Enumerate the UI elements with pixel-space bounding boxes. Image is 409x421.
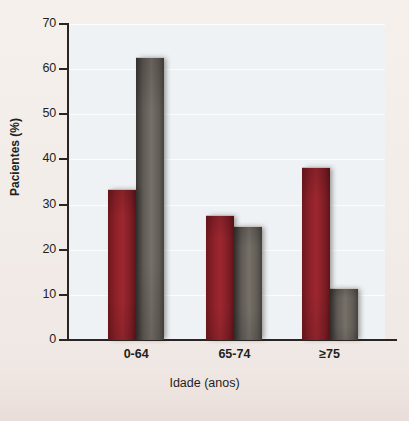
- bar-serie-vermelha-≥75: [302, 167, 330, 340]
- gridline: [68, 24, 385, 25]
- x-axis-title: Idade (anos): [0, 376, 409, 390]
- y-axis-tick-label: 0: [49, 332, 56, 346]
- figure-background: 010203040506070 0-6465-74≥75 Pacientes (…: [0, 0, 409, 421]
- y-axis-tick: [59, 158, 68, 160]
- x-axis-category-label: ≥75: [280, 347, 380, 361]
- gridline: [68, 114, 385, 115]
- y-axis-tick: [59, 113, 68, 115]
- y-axis-tick: [59, 249, 68, 251]
- bar-serie-cinza-65-74: [234, 226, 262, 340]
- x-axis-category-label: 65-74: [184, 347, 284, 361]
- y-axis-tick-label: 30: [42, 197, 56, 211]
- y-axis-tick-label: 50: [42, 106, 56, 120]
- y-axis-tick-label: 20: [42, 242, 56, 256]
- y-axis-title: Pacientes (%): [8, 97, 22, 217]
- y-axis-tick: [59, 294, 68, 296]
- gridline: [68, 69, 385, 70]
- y-axis-tick: [59, 339, 68, 341]
- plot-area: [68, 24, 385, 340]
- y-axis-tick-label: 10: [42, 287, 56, 301]
- y-axis-tick: [59, 68, 68, 70]
- bar-serie-cinza-0-64: [136, 57, 164, 340]
- y-axis-tick-label: 40: [42, 151, 56, 165]
- bar-serie-cinza-≥75: [330, 288, 358, 340]
- y-axis-tick: [59, 204, 68, 206]
- y-axis-tick: [59, 23, 68, 25]
- bar-serie-vermelha-65-74: [206, 215, 234, 340]
- y-axis-tick-label: 70: [42, 16, 56, 30]
- y-axis-tick-label: 60: [42, 61, 56, 75]
- gridline: [68, 159, 385, 160]
- bar-serie-vermelha-0-64: [108, 189, 136, 340]
- x-axis-category-label: 0-64: [86, 347, 186, 361]
